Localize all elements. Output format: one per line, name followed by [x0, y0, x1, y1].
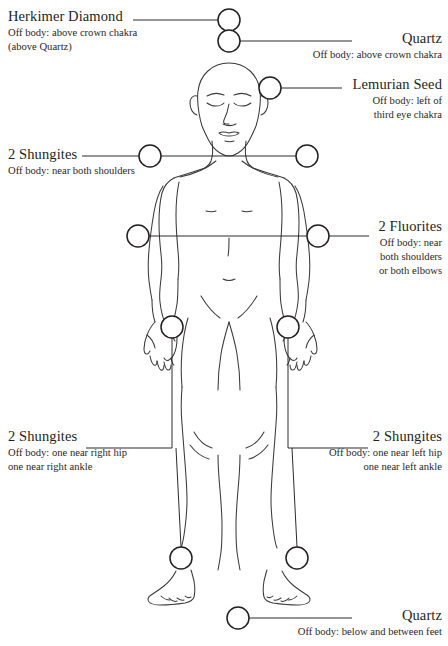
label-subtitle-line: Off body: one near left hip [329, 447, 442, 460]
label-shungites-shoulders: 2 Shungites Off body: near both shoulder… [8, 146, 135, 178]
leg-right-inner [218, 455, 222, 570]
finger-left-2 [297, 361, 304, 370]
finger-left-4 [287, 358, 290, 365]
toe-left-3 [274, 598, 281, 600]
label-subtitle-line: Off body: below and between feet [298, 626, 442, 639]
knee-right-crease-a [194, 432, 212, 448]
brow-left [234, 94, 251, 96]
thumb-left [306, 335, 314, 348]
label-subtitle-line: (above Quartz) [8, 41, 137, 54]
trapezius-right [174, 168, 205, 178]
label-shungites-right-side: 2 Shungites Off body: one near right hip… [8, 428, 127, 474]
circle-marker-crown-upper[interactable] [218, 9, 240, 31]
label-subtitle-line: one near left ankle [329, 461, 442, 474]
label-quartz-bottom: Quartz Off body: below and between feet [298, 607, 442, 639]
toe-right-2 [169, 598, 177, 601]
circle-marker-shoulder-left[interactable] [139, 145, 161, 167]
circle-marker-crown-lower[interactable] [218, 30, 240, 52]
chin-crease [225, 141, 234, 142]
label-shungites-left-side: 2 Shungites Off body: one near left hip … [329, 428, 442, 474]
circle-marker-shoulder-right[interactable] [296, 145, 318, 167]
toe-right-3 [177, 598, 184, 600]
knee-left-crease-b [249, 445, 268, 459]
label-subtitle-line: third eye chakra [353, 109, 442, 122]
arm-right-inner [176, 182, 179, 279]
crystal-placement-diagram: Herkimer Diamond Off body: above crown c… [0, 0, 448, 646]
label-title: Herkimer Diamond [8, 8, 137, 26]
circle-marker-elbow-left[interactable] [127, 225, 149, 247]
leader-lines [82, 20, 369, 618]
label-title: 2 Shungites [8, 428, 127, 446]
forearm-left-outer [303, 300, 306, 322]
toe-right-4 [185, 596, 191, 598]
label-subtitle-line: Off body: one near right hip [8, 447, 127, 460]
trapezius-left [253, 168, 284, 178]
connector-hip-left-lower [292, 448, 297, 547]
label-subtitle-line: Off body: above crown chakra [8, 27, 137, 40]
circle-marker-hip-right[interactable] [277, 316, 299, 338]
eye-right [207, 103, 224, 106]
forearm-left-inner [280, 279, 284, 319]
circle-marker-ankle-left[interactable] [170, 547, 192, 569]
label-subtitle-line: Off body: near [378, 237, 442, 250]
arm-left-inner [279, 182, 282, 279]
inner-thigh-left [229, 322, 240, 390]
circle-marker-hip-left[interactable] [161, 316, 183, 338]
label-title: Quartz [298, 607, 442, 625]
sternum-line [228, 238, 229, 256]
label-subtitle-line: Off body: left of [353, 95, 442, 108]
label-lemurian-seed: Lemurian Seed Off body: left of third ey… [353, 76, 442, 122]
hand-right-outer [144, 322, 155, 354]
finger-right-1 [150, 356, 157, 365]
nipple-left [242, 211, 252, 212]
finger-right-4 [171, 358, 174, 365]
label-subtitle-line: both shoulders [378, 251, 442, 264]
nipple-right [206, 211, 216, 212]
forearm-right-inner [174, 279, 178, 319]
groin-crease-right [201, 296, 220, 318]
finger-left-3 [290, 362, 297, 370]
finger-right-2 [157, 361, 164, 370]
forearm-right-outer [152, 300, 155, 322]
leg-right-outer [181, 387, 187, 548]
hand-left-outer [306, 322, 317, 354]
label-title: 2 Shungites [329, 428, 442, 446]
circle-marker-below-feet[interactable] [227, 607, 249, 629]
connector-hip-right-lower [176, 448, 181, 547]
toe-left-4 [267, 596, 273, 598]
label-subtitle-line: Off body: near both shoulders [8, 165, 135, 178]
brow-right [207, 94, 224, 96]
label-title: 2 Fluorites [378, 218, 442, 236]
nose-bridge [224, 104, 229, 124]
knee-left-crease-a [246, 432, 264, 448]
navel [223, 279, 235, 281]
placement-markers [127, 9, 329, 629]
label-subtitle-line: Off body: above crown chakra [313, 49, 442, 62]
inner-thigh-right [218, 322, 229, 390]
eye-left [234, 103, 251, 106]
knee-right-crease-b [190, 445, 209, 459]
leg-left-inner [236, 455, 240, 570]
label-fluorites: 2 Fluorites Off body: near both shoulder… [378, 218, 442, 277]
circle-marker-ankle-right[interactable] [286, 547, 308, 569]
finger-right-3 [164, 362, 171, 370]
label-subtitle-line: one near right ankle [8, 461, 127, 474]
label-subtitle-line: or both elbows [378, 265, 442, 278]
label-title: 2 Shungites [8, 146, 135, 164]
thumb-right [147, 335, 155, 348]
circle-marker-elbow-right[interactable] [307, 225, 329, 247]
groin-crease-left [238, 296, 257, 318]
label-herkimer-diamond: Herkimer Diamond Off body: above crown c… [8, 8, 137, 54]
circle-marker-third-eye[interactable] [259, 77, 281, 99]
toe-left-2 [281, 598, 289, 601]
label-title: Lemurian Seed [353, 76, 442, 94]
hip-left-edge [270, 318, 277, 387]
finger-left-1 [304, 356, 311, 365]
leg-left-outer [271, 387, 277, 548]
ear-right [190, 96, 197, 115]
label-title: Quartz [313, 30, 442, 48]
mouth [219, 132, 239, 136]
label-quartz-top: Quartz Off body: above crown chakra [313, 30, 442, 62]
